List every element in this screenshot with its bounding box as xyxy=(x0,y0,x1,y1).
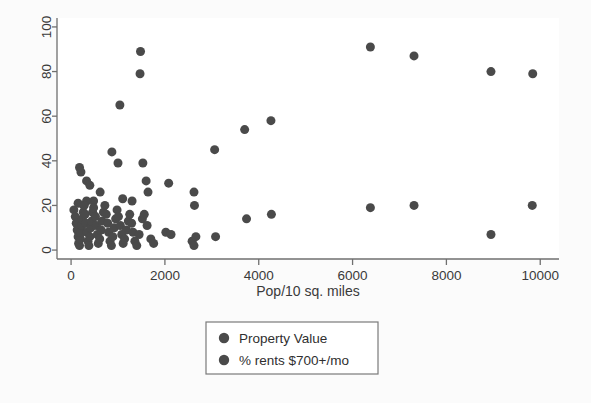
x-tick-label: 4000 xyxy=(244,268,274,283)
data-point xyxy=(120,234,129,243)
data-point xyxy=(267,210,276,219)
x-tick-label: 0 xyxy=(67,268,75,283)
data-point xyxy=(410,201,419,210)
data-point xyxy=(118,194,127,203)
data-point xyxy=(136,69,145,78)
data-point xyxy=(107,147,116,156)
data-point xyxy=(164,179,173,188)
data-point xyxy=(190,201,199,210)
data-point xyxy=(211,232,220,241)
data-point xyxy=(85,181,94,190)
y-tick-label: 100 xyxy=(40,16,55,39)
data-point xyxy=(142,176,151,185)
data-point xyxy=(100,201,109,210)
x-tick-label: 2000 xyxy=(150,268,180,283)
scatter-plot: 020406080100 0200040006000800010000 Pop/… xyxy=(0,0,591,403)
data-point xyxy=(210,145,219,154)
data-point xyxy=(240,125,249,134)
data-point xyxy=(135,230,144,239)
data-point xyxy=(140,210,149,219)
data-point xyxy=(80,201,89,210)
legend: Property Value% rents $700+/mo xyxy=(206,322,378,374)
data-point xyxy=(191,232,200,241)
data-point xyxy=(127,219,136,228)
y-tick-label: 80 xyxy=(40,64,55,79)
data-point xyxy=(486,67,495,76)
x-tick-label: 10000 xyxy=(521,268,559,283)
legend-marker-icon xyxy=(219,355,229,365)
data-point xyxy=(486,230,495,239)
legend-marker-icon xyxy=(219,333,229,343)
legend-label: % rents $700+/mo xyxy=(239,353,349,368)
data-point xyxy=(143,221,152,230)
data-point xyxy=(89,203,98,212)
data-point xyxy=(189,188,198,197)
data-point xyxy=(108,232,117,241)
data-point xyxy=(528,201,537,210)
data-point xyxy=(84,241,93,250)
data-point xyxy=(132,241,141,250)
data-point xyxy=(125,210,134,219)
y-tick-label: 60 xyxy=(40,109,55,124)
data-point xyxy=(115,101,124,110)
x-axis-title: Pop/10 sq. miles xyxy=(256,283,360,299)
data-point xyxy=(242,214,251,223)
data-point xyxy=(138,159,147,168)
x-tick-label: 6000 xyxy=(338,268,368,283)
data-point xyxy=(189,241,198,250)
data-point xyxy=(266,116,275,125)
legend-label: Property Value xyxy=(239,331,327,346)
data-point xyxy=(107,241,116,250)
data-point xyxy=(114,212,123,221)
data-point xyxy=(167,230,176,239)
data-point xyxy=(76,167,85,176)
data-point xyxy=(366,43,375,52)
data-point xyxy=(144,188,153,197)
data-point xyxy=(95,234,104,243)
x-tick-label: 8000 xyxy=(431,268,461,283)
data-point xyxy=(113,159,122,168)
data-point xyxy=(366,203,375,212)
data-point xyxy=(96,188,105,197)
data-point xyxy=(128,196,137,205)
figure-container: 020406080100 0200040006000800010000 Pop/… xyxy=(0,0,591,403)
y-tick-label: 20 xyxy=(40,198,55,213)
y-tick-label: 0 xyxy=(40,246,55,254)
data-point xyxy=(102,210,111,219)
data-point xyxy=(149,239,158,248)
data-point xyxy=(136,47,145,56)
data-point xyxy=(528,69,537,78)
y-tick-label: 40 xyxy=(40,153,55,168)
data-point xyxy=(410,51,419,60)
